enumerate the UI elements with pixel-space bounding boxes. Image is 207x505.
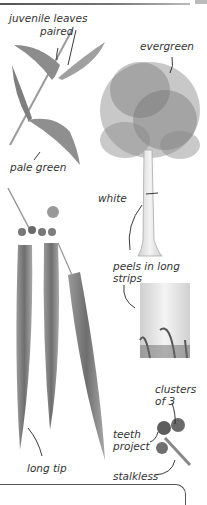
label-long-tip: long tip <box>27 462 67 474</box>
label-evergreen: evergreen <box>140 40 194 52</box>
tree-canopy-icon <box>100 62 200 159</box>
label-peels-line1: peels in long <box>113 260 180 272</box>
tree-trunk-icon <box>138 150 162 256</box>
label-clusters-line2: of 3 <box>155 395 175 407</box>
label-peels-line2: strips <box>113 272 142 284</box>
label-teeth-line2: project <box>113 440 150 452</box>
label-paired: paired <box>40 25 73 37</box>
bark-closeup-icon <box>140 283 190 358</box>
label-clusters-line1: clusters <box>155 383 196 395</box>
seed-capsules-icon <box>156 418 190 465</box>
adult-leaves-icon <box>8 188 105 460</box>
label-pale-green: pale green <box>10 161 66 173</box>
label-teeth-line1: teeth <box>113 428 141 440</box>
label-white: white <box>98 192 127 204</box>
label-juvenile-leaves: juvenile leaves <box>9 12 88 24</box>
label-stalkless: stalkless <box>113 470 158 482</box>
bottom-panel-border <box>0 484 186 505</box>
